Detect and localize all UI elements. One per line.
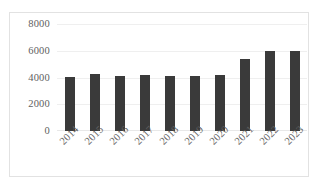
bar-2019[interactable] <box>190 76 200 131</box>
bar-slot-2022 <box>257 24 282 131</box>
x-slot-9: 2023 <box>282 135 307 177</box>
x-slot-2: 2016 <box>107 135 132 177</box>
bar-series <box>57 24 307 131</box>
bar-slot-2023 <box>282 24 307 131</box>
bar-slot-2017 <box>132 24 157 131</box>
x-slot-1: 2015 <box>82 135 107 177</box>
bar-slot-2020 <box>207 24 232 131</box>
bar-slot-2014 <box>57 24 82 131</box>
bar-slot-2018 <box>157 24 182 131</box>
bar-2022[interactable] <box>265 51 275 131</box>
y-tick-label-8000: 8000 <box>6 19 50 29</box>
y-tick-label-0: 0 <box>6 126 50 136</box>
x-slot-4: 2018 <box>157 135 182 177</box>
y-tick-label-6000: 6000 <box>6 46 50 56</box>
x-slot-0: 2014 <box>57 135 82 177</box>
bar-2023[interactable] <box>290 51 300 131</box>
bar-2020[interactable] <box>215 75 225 131</box>
x-slot-3: 2017 <box>132 135 157 177</box>
bar-slot-2021 <box>232 24 257 131</box>
plot-area <box>57 24 307 131</box>
x-slot-6: 2020 <box>207 135 232 177</box>
x-slot-5: 2019 <box>182 135 207 177</box>
bar-2015[interactable] <box>90 74 100 131</box>
x-slot-7: 2021 <box>232 135 257 177</box>
bar-slot-2016 <box>107 24 132 131</box>
x-axis-tick-labels: 2014 2015 2016 2017 2018 2019 2020 2021 … <box>57 135 307 177</box>
bar-slot-2015 <box>82 24 107 131</box>
x-slot-8: 2022 <box>257 135 282 177</box>
chart-container: 8000 6000 4000 2000 0 2014 2015 2016 201… <box>9 12 309 177</box>
bar-slot-2019 <box>182 24 207 131</box>
y-tick-label-4000: 4000 <box>6 73 50 83</box>
bar-2018[interactable] <box>165 76 175 131</box>
y-tick-label-2000: 2000 <box>6 99 50 109</box>
bar-2021[interactable] <box>240 59 250 131</box>
bar-2016[interactable] <box>115 76 125 132</box>
bar-2017[interactable] <box>140 75 150 131</box>
